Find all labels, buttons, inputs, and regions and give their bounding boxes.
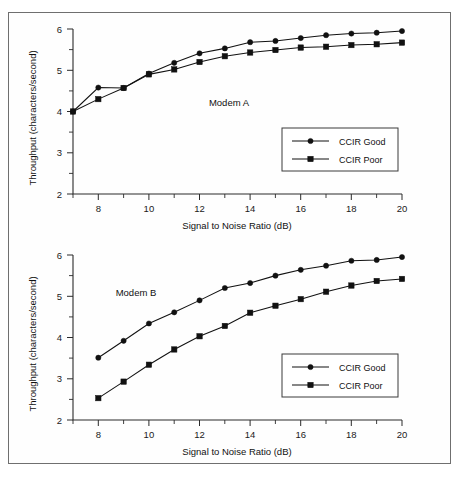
data-point-square	[247, 310, 252, 315]
x-tick-label-b-10: 10	[144, 429, 155, 440]
data-point-square	[222, 54, 227, 59]
x-tick-label-b-8: 8	[96, 429, 101, 440]
legend-label-good-b: CCIR Good	[339, 363, 386, 373]
data-point-square	[323, 44, 328, 49]
data-point-circle	[172, 310, 177, 315]
legend-marker-circle-icon-b	[308, 364, 313, 369]
data-point-square	[374, 42, 379, 47]
data-point-circle	[273, 273, 278, 278]
legend-marker-square-icon	[308, 156, 313, 161]
data-point-square	[273, 303, 278, 308]
data-point-circle	[121, 338, 126, 343]
y-axis-ticks-b: 6 5 4 3 2	[57, 250, 73, 426]
data-point-circle	[172, 60, 177, 65]
series-line	[98, 257, 402, 358]
data-point-circle	[197, 298, 202, 303]
y-tick-label-b-3: 3	[57, 373, 62, 384]
data-point-circle	[197, 51, 202, 56]
series-ccir-good	[96, 254, 405, 360]
legend-label-poor-b: CCIR Poor	[339, 381, 383, 391]
x-tick-label-b-16: 16	[295, 429, 306, 440]
legend-box	[282, 128, 398, 171]
data-point-circle	[374, 30, 379, 35]
data-point-square	[121, 85, 126, 90]
data-point-square	[197, 59, 202, 64]
data-point-square	[323, 289, 328, 294]
chart-modem-b-svg: Throughput (characters/second) 6 5 4 3 2	[9, 239, 452, 465]
x-axis-ticks: 8 10 12 14 16 18 20	[73, 194, 407, 214]
data-point-circle	[349, 258, 354, 263]
data-point-circle	[323, 33, 328, 38]
legend-label-poor: CCIR Poor	[339, 155, 383, 165]
data-point-square	[197, 334, 202, 339]
legend-box-b	[282, 354, 398, 397]
x-tick-label-18: 18	[346, 203, 357, 214]
panel-annotation-modem-a: Modem A	[209, 97, 250, 108]
y-tick-label-4: 4	[57, 106, 62, 117]
x-axis-title-b: Signal to Noise Ratio (dB)	[182, 446, 291, 457]
y-axis-title-group-b: Throughput (characters/second)	[27, 276, 38, 411]
data-point-circle	[349, 31, 354, 36]
data-point-square	[399, 276, 404, 281]
chart-modem-a-svg: Throughput (characters/second) 6 5 4 3 2	[9, 13, 452, 239]
y-tick-label-2: 2	[57, 189, 62, 200]
x-tick-label-16: 16	[295, 203, 306, 214]
x-tick-label-b-12: 12	[194, 429, 205, 440]
y-axis-title-group: Throughput (characters/second)	[27, 50, 38, 185]
figure-border: Throughput (characters/second) 6 5 4 3 2	[8, 12, 451, 464]
x-tick-label-b-14: 14	[245, 429, 256, 440]
data-point-circle	[298, 35, 303, 40]
x-tick-label-12: 12	[194, 203, 205, 214]
x-tick-label-20: 20	[397, 203, 408, 214]
data-point-circle	[273, 38, 278, 43]
data-point-square	[399, 40, 404, 45]
data-point-square	[222, 323, 227, 328]
data-point-circle	[374, 257, 379, 262]
y-axis-title-b: Throughput (characters/second)	[27, 276, 38, 411]
x-axis-title: Signal to Noise Ratio (dB)	[182, 220, 291, 231]
data-point-circle	[399, 254, 404, 259]
panel-annotation-modem-b: Modem B	[116, 287, 157, 298]
legend-marker-square-icon-b	[308, 382, 313, 387]
data-point-square	[374, 278, 379, 283]
data-point-circle	[222, 285, 227, 290]
data-point-circle	[96, 355, 101, 360]
data-point-square	[172, 67, 177, 72]
legend-modem-a: CCIR Good CCIR Poor	[282, 128, 398, 171]
y-tick-label-b-4: 4	[57, 332, 62, 343]
data-point-square	[146, 72, 151, 77]
legend-label-good: CCIR Good	[339, 137, 386, 147]
x-tick-label-b-18: 18	[346, 429, 357, 440]
legend-marker-circle-icon	[308, 138, 313, 143]
data-point-square	[298, 296, 303, 301]
data-point-square	[70, 109, 75, 114]
data-point-square	[298, 45, 303, 50]
data-point-circle	[323, 263, 328, 268]
legend-modem-b: CCIR Good CCIR Poor	[282, 354, 398, 397]
chart-modem-a: Throughput (characters/second) 6 5 4 3 2	[9, 13, 452, 239]
data-point-square	[96, 395, 101, 400]
y-tick-label-b-2: 2	[57, 415, 62, 426]
data-point-square	[349, 42, 354, 47]
data-point-circle	[399, 28, 404, 33]
data-point-circle	[248, 40, 253, 45]
y-tick-label-b-5: 5	[57, 291, 62, 302]
data-point-circle	[146, 321, 151, 326]
data-point-square	[349, 283, 354, 288]
y-tick-label-6: 6	[57, 24, 62, 35]
x-tick-label-10: 10	[144, 203, 155, 214]
data-point-square	[247, 50, 252, 55]
x-axis-ticks-b: 8 10 12 14 16 18 20	[73, 420, 407, 440]
data-point-circle	[222, 46, 227, 51]
data-point-circle	[96, 85, 101, 90]
y-axis-title: Throughput (characters/second)	[27, 50, 38, 185]
data-point-square	[273, 47, 278, 52]
data-point-circle	[298, 267, 303, 272]
data-point-square	[172, 347, 177, 352]
y-tick-label-b-6: 6	[57, 250, 62, 261]
x-tick-label-14: 14	[245, 203, 256, 214]
data-point-circle	[248, 280, 253, 285]
data-point-square	[96, 96, 101, 101]
chart-modem-b: Throughput (characters/second) 6 5 4 3 2	[9, 239, 452, 465]
y-tick-label-3: 3	[57, 147, 62, 158]
